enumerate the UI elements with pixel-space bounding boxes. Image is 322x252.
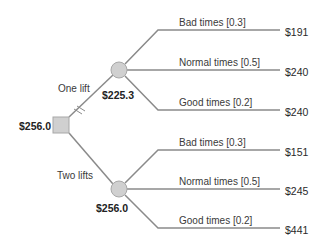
expected-value-one-lift: $225.3 — [102, 89, 134, 101]
outcome-payoff: $240 — [285, 66, 308, 78]
expected-value-two-lifts: $256.0 — [96, 202, 128, 214]
root-value: $256.0 — [19, 120, 51, 132]
outcome-label: Good times [0.2] — [179, 215, 252, 227]
outcome-label: Normal times [0.5] — [179, 57, 260, 69]
outcome-label: Good times [0.2] — [179, 97, 252, 109]
chance-node-two-lifts — [111, 181, 127, 197]
outcome-label: Bad times [0.3] — [179, 17, 246, 29]
outcome-payoff: $191 — [285, 26, 308, 38]
outcome-label: Bad times [0.3] — [179, 137, 246, 149]
decision-node — [53, 117, 69, 133]
pruned-branch-marker — [74, 106, 85, 114]
outcome-payoff: $245 — [285, 185, 308, 197]
option-label-one-lift: One lift — [58, 83, 90, 95]
chance-node-one-lift — [111, 62, 127, 78]
option-label-two-lifts: Two lifts — [57, 170, 93, 182]
outcome-label: Normal times [0.5] — [179, 176, 260, 188]
outcome-payoff: $240 — [285, 106, 308, 118]
outcome-payoff: $151 — [285, 146, 308, 158]
outcome-payoff: $441 — [285, 224, 308, 236]
